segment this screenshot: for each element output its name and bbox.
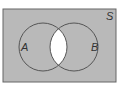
set-b-label: B bbox=[91, 41, 98, 53]
universe-label: S bbox=[106, 10, 114, 22]
set-a-label: A bbox=[20, 41, 28, 53]
venn-diagram: A B S bbox=[0, 0, 119, 86]
